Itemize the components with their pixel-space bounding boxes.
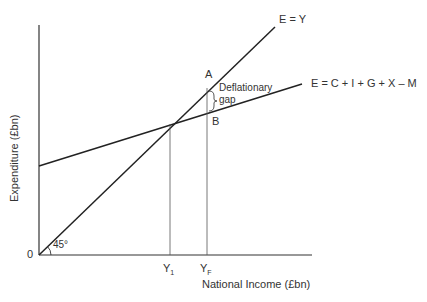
aggregate-demand-label: E = C + I + G + X – M — [311, 78, 417, 89]
e-equals-y-label: E = Y — [279, 14, 306, 25]
point-b-label: B — [212, 116, 219, 127]
brace-icon — [209, 91, 217, 111]
deflationary-gap-label-1: Deflationary — [219, 83, 272, 93]
y1-sub: 1 — [170, 269, 174, 276]
aggregate-demand-line — [39, 84, 302, 166]
diagram-canvas — [0, 0, 427, 302]
point-a-label: A — [205, 69, 212, 80]
y1-marker: Y1 — [163, 263, 174, 274]
deflationary-gap-label-2: gap — [219, 95, 236, 105]
y-axis-label: Expenditure (£bn) — [8, 115, 20, 202]
angle-label: 45° — [53, 240, 68, 250]
x-axis-label: National Income (£bn) — [202, 279, 310, 290]
yf-marker: YF — [200, 263, 212, 274]
e-equals-y-line — [39, 27, 275, 255]
angle-arc-icon — [48, 247, 52, 256]
origin-label: 0 — [27, 249, 33, 260]
yf-sub: F — [207, 269, 211, 276]
